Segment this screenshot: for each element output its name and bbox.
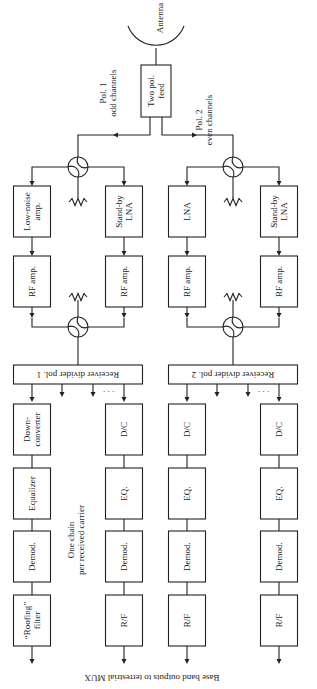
connector-line [32,167,68,184]
pol1-input-circulator-icon [68,157,88,177]
pol1-chain-a-stage-2-box-label: Equalizer [27,476,37,510]
arrowhead-down-icon [277,397,282,402]
arrowhead-down-icon [30,251,35,256]
arrowhead-down-icon [185,181,190,186]
pol2-main-lna-box-label-line: LNA [182,202,192,221]
connector-line [88,318,124,327]
pol2-chain-b-stage-2-box-label-line: EQ. [274,486,284,500]
pol1-rf-amp-b-box-label-line: RF amp. [119,266,129,297]
pol1-label-line: odd channels [108,69,118,117]
pol2-input-load-icon [224,199,242,206]
pol1-chain-b-stage-3-box: Demod. [106,531,143,582]
arrowhead-down-icon [30,181,35,186]
one-chain-per-carrier-note: One chainper received carrier [66,505,86,575]
pol1-rf-amp-a-box: RF amp. [14,256,51,307]
pol1-chain-a-stage-2-box-label-line: Equalizer [27,476,37,510]
pol1-chain-b-stage-2-box-label-line: EQ. [119,486,129,500]
arrowhead-right-icon [192,133,197,138]
pol2-label: Pol. 2even channels [194,94,214,145]
connector-line [243,318,279,327]
pol2-rf-amp-b-box-label-line: RF amp. [274,266,284,297]
pol1-chain-a-stage-4-box-label-line: filter [32,612,42,630]
pol1-label: Pol. 1odd channels [98,69,118,117]
pol2-chain-b-stage-1-box: D/C [261,404,298,455]
baseband-output-arrow-icon [185,659,190,664]
pol1-chain-b-stage-4-box-label: R/F [119,614,129,628]
pol1-label-line: Pol. 1 [98,82,108,103]
pol2-standby-lna-box-label-line: Stand-by [269,195,279,228]
pol2-receiver-divider-label-text: Receiver divider pol. 2 [192,370,274,380]
connector-line [88,167,124,184]
arrowhead-down-icon [277,181,282,186]
pol2-label-line: Pol. 2 [194,109,204,130]
pol2-output-load-icon [224,294,242,301]
arrowhead-down-icon [30,313,35,318]
pol1-feed-line [78,117,150,157]
pol2-rf-amp-a-box-label-line: RF amp. [182,266,192,297]
baseband-output-arrow-icon [30,659,35,664]
pol2-chain-a-stage-2-box-label-line: EQ. [182,486,192,500]
pol2-standby-lna-box-label-line: LNA [279,202,289,221]
pol1-main-lna-box: Low-noiseamp. [14,186,51,237]
pol2-chain-b-stage-4-box-label: R/F [274,614,284,628]
pol1-output-load-icon [69,294,87,301]
pol1-rf-amp-a-box-label-line: RF amp. [27,266,37,297]
pol2-chain-a-stage-3-box-label: Demod. [182,542,192,571]
pol2-chain-a-stage-1-box-label: D/C [182,422,192,437]
arrowhead-down-icon [122,181,127,186]
pol2-standby-lna-box: Stand-byLNA [261,186,298,237]
connector-line [187,167,223,184]
arrowhead-down-icon [185,397,190,402]
baseband-output-arrow-icon [277,659,282,664]
two-pol-feed-box-label-line: Two pol. [146,75,156,107]
pol2-chain-b-stage-1-box-label: D/C [274,422,284,437]
pol1-rf-amp-a-box-label: RF amp. [27,266,37,297]
pol1-chain-b-stage-2-box: EQ. [106,468,143,519]
pol2-chain-b-stage-4-box-label-line: R/F [274,614,284,628]
arrowhead-left-icon [113,133,118,138]
pol1-chain-a-stage-3-box: Demod. [14,531,51,582]
pol1-input-load-icon [69,199,87,206]
pol1-chain-b-stage-4-box: R/F [106,595,143,646]
one-chain-per-carrier-note-line: per received carrier [76,505,86,575]
pol1-chain-a-stage-1-box-label-line: converter [32,413,42,447]
pol2-output-circulator-icon [223,317,243,337]
pol2-main-lna-box-label: LNA [182,202,192,221]
pol2-rf-amp-a-box-label: RF amp. [182,266,192,297]
pol2-chain-a-stage-1-box: D/C [169,404,206,455]
antenna-label: Antenna [155,3,165,34]
pol1-chain-b-stage-3-box-label-line: Demod. [119,542,129,571]
arrowhead-down-icon [215,392,220,397]
pol2-chain-b-stage-1-box-label-line: D/C [274,422,284,437]
pol2-chain-a-stage-1-box-label-line: D/C [182,422,192,437]
pol2-chain-a-stage-2-box: EQ. [169,468,206,519]
pol2-chain-a-stage-4-box-label: R/F [182,614,192,628]
pol1-chain-b-stage-4-box-label-line: R/F [119,614,129,628]
pol1-chain-a-stage-4-box-label-line: “Roofing” [22,602,32,640]
pol1-chain-a-stage-1-box-label-line: Down- [22,417,32,442]
pol1-chain-a-stage-3-box-label: Demod. [27,542,37,571]
pol2-rf-amp-a-box: RF amp. [169,256,206,307]
arrowhead-down-icon [246,392,251,397]
arrowhead-down-icon [122,251,127,256]
pol2-chain-b-stage-2-box: EQ. [261,468,298,519]
pol2-label-line: even channels [204,94,214,145]
pol1-standby-lna-box-label-line: Stand-by [114,195,124,228]
arrowhead-down-icon [277,251,282,256]
pol2-chain-a-stage-4-box: R/F [169,595,206,646]
pol2-input-circulator-icon [223,157,243,177]
pol2-chain-b-stage-4-box: R/F [261,595,298,646]
arrowhead-down-icon [122,313,127,318]
pol2-chain-a-stage-3-box-label-line: Demod. [182,542,192,571]
pol2-chain-a-stage-4-box-label-line: R/F [182,614,192,628]
arrowhead-down-icon [122,397,127,402]
pol2-rf-amp-b-box-label: RF amp. [274,266,284,297]
connector-line [243,167,279,184]
pol2-chain-b-stage-3-box-label: Demod. [274,542,284,571]
pol1-ellipsis: . . . [103,384,114,394]
pol1-chain-a-stage-1-box: Down-converter [14,404,51,455]
arrowhead-down-icon [30,397,35,402]
antenna-label-line: Antenna [155,3,165,34]
satellite-receiver-block-diagram: AntennaTwo pol.feedPol. 1odd channelsPol… [0,0,317,689]
connector-line [32,318,68,327]
